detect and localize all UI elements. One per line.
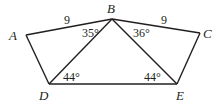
figure-lines xyxy=(26,19,200,84)
vertex-label-b: B xyxy=(107,1,115,16)
segment-da xyxy=(26,35,49,84)
segment-ce xyxy=(177,33,200,84)
angle-label-abd: 35° xyxy=(82,26,99,40)
vertex-label-a: A xyxy=(8,28,17,43)
pentagon-diagram: A B C D E 9 9 35° 36° 44° 44° xyxy=(0,0,224,110)
vertex-label-e: E xyxy=(175,88,184,103)
segment-bc xyxy=(112,19,200,33)
angle-label-bed: 44° xyxy=(144,70,161,84)
vertex-label-d: D xyxy=(38,88,49,103)
angle-label-cbe: 36° xyxy=(133,26,150,40)
side-label-bc: 9 xyxy=(161,13,167,27)
vertex-label-c: C xyxy=(203,26,212,41)
angle-label-bde: 44° xyxy=(63,70,80,84)
side-label-ab: 9 xyxy=(64,13,70,27)
